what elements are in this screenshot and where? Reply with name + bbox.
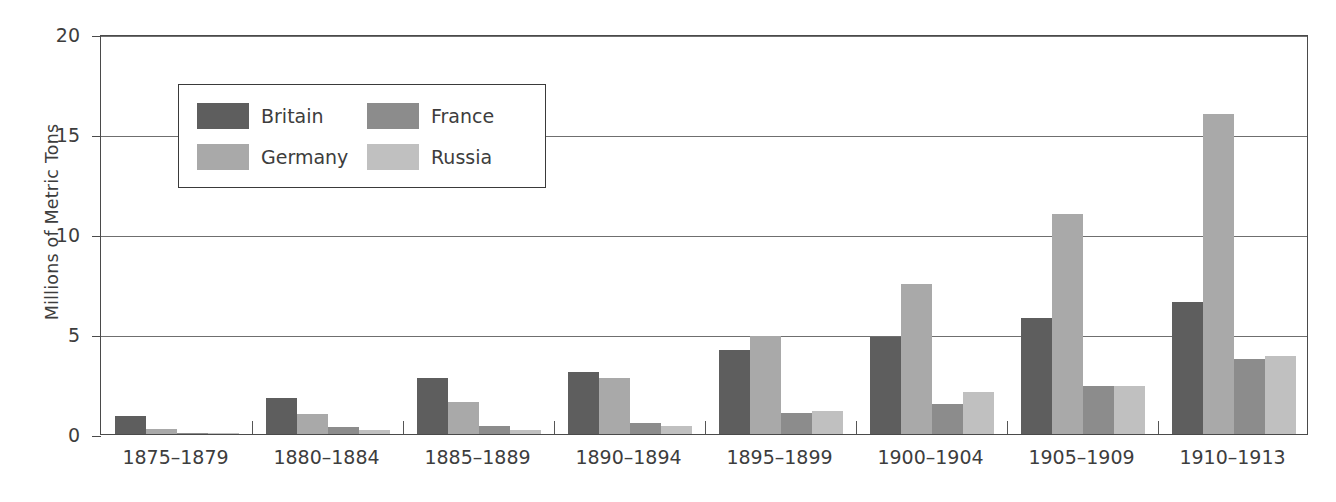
legend-item-britain: Britain — [197, 103, 361, 129]
x-axis-group-separator — [403, 421, 404, 434]
bar-germany-1910-1913 — [1203, 114, 1234, 434]
legend-swatch-germany — [197, 144, 249, 170]
x-axis-tick-label: 1890–1894 — [553, 446, 704, 468]
x-axis-tick-label: 1895–1899 — [704, 446, 855, 468]
legend-item-russia: Russia — [367, 144, 531, 170]
bar-russia-1895-1899 — [812, 411, 843, 434]
bar-britain-1885-1889 — [417, 378, 448, 434]
legend-item-france: France — [367, 103, 531, 129]
bar-france-1910-1913 — [1234, 359, 1265, 434]
bar-france-1880-1884 — [328, 427, 359, 434]
bar-britain-1875-1879 — [115, 416, 146, 434]
bar-britain-1890-1894 — [568, 372, 599, 434]
x-axis-tick-label: 1900–1904 — [855, 446, 1006, 468]
y-axis-tick-label: 0 — [20, 424, 80, 446]
y-axis-tick-label: 20 — [20, 24, 80, 46]
x-axis-group-separator — [1158, 421, 1159, 434]
bar-britain-1900-1904 — [870, 337, 901, 434]
bar-russia-1890-1894 — [661, 426, 692, 434]
y-axis-tick — [92, 436, 101, 437]
x-axis-tick-label: 1885–1889 — [402, 446, 553, 468]
bar-germany-1895-1899 — [750, 336, 781, 434]
bar-france-1890-1894 — [630, 423, 661, 434]
bar-britain-1880-1884 — [266, 398, 297, 434]
bar-britain-1905-1909 — [1021, 318, 1052, 434]
bar-germany-1875-1879 — [146, 429, 177, 434]
y-axis-tick — [92, 136, 101, 137]
bar-group — [554, 36, 705, 434]
x-axis-group-separator — [554, 421, 555, 434]
bar-france-1900-1904 — [932, 404, 963, 434]
bar-france-1885-1889 — [479, 426, 510, 434]
legend-label-britain: Britain — [261, 105, 324, 127]
bar-france-1895-1899 — [781, 413, 812, 434]
y-axis-tick — [92, 336, 101, 337]
y-axis-tick-label: 15 — [20, 124, 80, 146]
y-axis-tick — [92, 236, 101, 237]
x-axis-group-separator — [1007, 421, 1008, 434]
x-axis-group-separator — [252, 421, 253, 434]
bar-germany-1890-1894 — [599, 378, 630, 434]
bar-group — [1158, 36, 1309, 434]
legend-label-france: France — [431, 105, 494, 127]
bar-group — [1007, 36, 1158, 434]
bar-britain-1910-1913 — [1172, 302, 1203, 434]
legend-swatch-britain — [197, 103, 249, 129]
x-axis-tick-label: 1875–1879 — [100, 446, 251, 468]
bar-russia-1880-1884 — [359, 430, 390, 434]
bar-france-1905-1909 — [1083, 386, 1114, 434]
bar-germany-1880-1884 — [297, 414, 328, 434]
bar-group — [856, 36, 1007, 434]
bar-group — [705, 36, 856, 434]
x-axis-group-separator — [856, 421, 857, 434]
x-axis-tick-label: 1880–1884 — [251, 446, 402, 468]
bar-chart: Millions of Metric Tons 05101520 1875–18… — [0, 0, 1336, 502]
bar-germany-1900-1904 — [901, 284, 932, 434]
y-axis-tick — [92, 36, 101, 37]
x-axis-tick-label: 1910–1913 — [1157, 446, 1308, 468]
y-axis-tick-label: 5 — [20, 324, 80, 346]
bar-germany-1905-1909 — [1052, 214, 1083, 434]
x-axis-tick-label: 1905–1909 — [1006, 446, 1157, 468]
legend-item-germany: Germany — [197, 144, 361, 170]
bar-russia-1905-1909 — [1114, 386, 1145, 434]
bar-russia-1885-1889 — [510, 430, 541, 434]
bar-france-1875-1879 — [177, 433, 208, 434]
bar-russia-1910-1913 — [1265, 356, 1296, 434]
x-axis-group-separator — [705, 421, 706, 434]
bar-russia-1875-1879 — [208, 433, 239, 434]
bar-germany-1885-1889 — [448, 402, 479, 434]
bar-russia-1900-1904 — [963, 392, 994, 434]
legend-label-russia: Russia — [431, 146, 492, 168]
legend-label-germany: Germany — [261, 146, 348, 168]
legend-swatch-france — [367, 103, 419, 129]
legend: BritainFranceGermanyRussia — [178, 84, 546, 188]
legend-swatch-russia — [367, 144, 419, 170]
bar-britain-1895-1899 — [719, 350, 750, 434]
y-axis-tick-label: 10 — [20, 224, 80, 246]
